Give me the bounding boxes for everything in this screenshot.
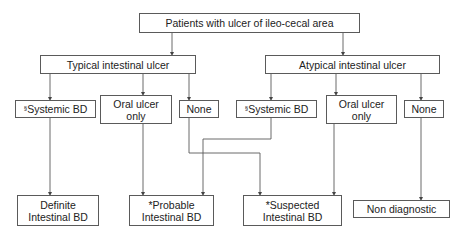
atypical-ulcer-node: Atypical intestinal ulcer [265,55,440,74]
probable-line2: Intestinal BD [142,211,202,223]
root-node: Patients with ulcer of ileo-cecal area [139,13,360,33]
definite-intestinal-bd-node: Definite Intestinal BD [17,195,99,226]
atypical-oral-ulcer-line2: only [352,110,371,122]
non-diagnostic-node: Non diagnostic [353,200,450,218]
typical-ulcer-node: Typical intestinal ulcer [40,55,196,74]
atypical-oral-ulcer-line1: Oral ulcer [339,98,385,110]
typical-oral-ulcer-line2: only [126,110,145,122]
suspected-line1: *Suspected [266,199,320,211]
typical-systemic-bd-label: Systemic BD [27,103,87,115]
atypical-none-node: None [404,100,444,118]
definite-line1: Definite [40,199,76,211]
atypical-systemic-bd-node: §Systemic BD [236,100,317,118]
atypical-oral-ulcer-node: Oral ulcer only [326,95,397,124]
typical-ulcer-label: Typical intestinal ulcer [67,59,170,71]
typical-oral-ulcer-node: Oral ulcer only [100,95,172,124]
edge-atypical-systemic-probable [203,118,271,194]
typical-oral-ulcer-line1: Oral ulcer [113,98,159,110]
section-mark: § [245,102,248,114]
typical-none-label: None [186,103,211,115]
flowchart: Patients with ulcer of ileo-cecal area T… [0,0,462,237]
atypical-ulcer-label: Atypical intestinal ulcer [299,59,406,71]
atypical-systemic-bd-label: Systemic BD [248,103,308,115]
root-label: Patients with ulcer of ileo-cecal area [165,17,333,29]
edge-none-suspected [189,118,260,194]
atypical-none-label: None [411,103,436,115]
non-diagnostic-label: Non diagnostic [367,203,436,215]
typical-none-node: None [179,100,219,118]
typical-systemic-bd-node: §Systemic BD [15,100,96,118]
probable-intestinal-bd-node: *Probable Intestinal BD [129,195,214,226]
suspected-line2: Intestinal BD [263,211,323,223]
suspected-intestinal-bd-node: *Suspected Intestinal BD [243,195,342,226]
section-mark: § [24,102,27,114]
definite-line2: Intestinal BD [28,211,88,223]
probable-line1: *Probable [148,199,194,211]
